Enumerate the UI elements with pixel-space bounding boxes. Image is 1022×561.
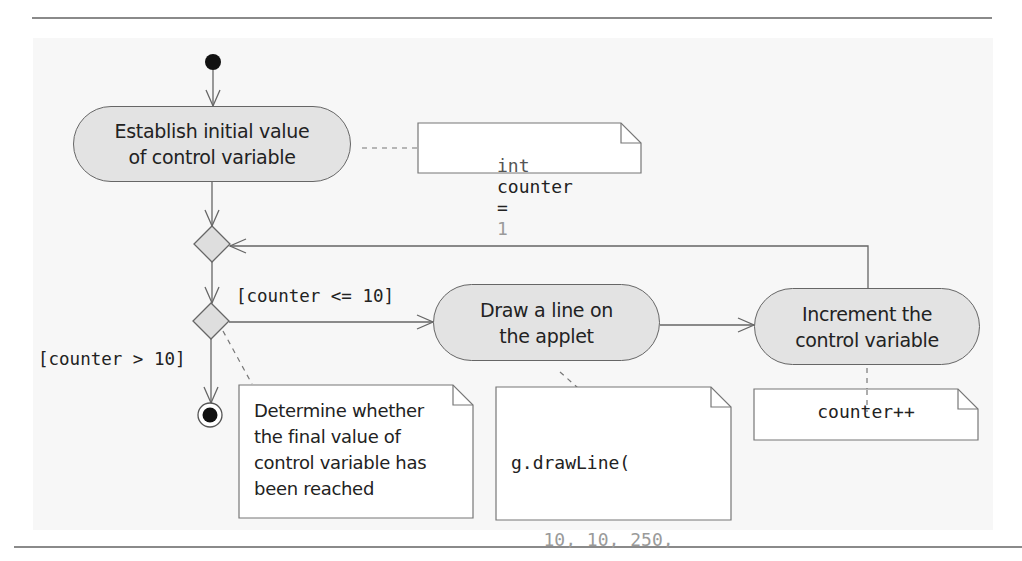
note-decision-description: Determine whether the final value of con… [239,385,473,518]
guard-counter-gt-10: [counter > 10] [38,349,186,369]
note-line: the final value of [254,424,426,450]
decision-diamond-icon [193,303,229,339]
note-anchor-decision [223,331,252,384]
code-line: 10, 10, 250, [511,527,674,553]
note-drawline-code: g.drawLine( 10, 10, 250, counter * 10 ); [496,387,731,520]
code-literal: 1 [497,218,508,239]
note-increment-code: counter++ [754,389,978,440]
initial-node-icon [205,54,221,70]
action-label-line: of control variable [115,144,310,170]
guard-counter-le-10: [counter <= 10] [236,286,394,306]
note-line: been reached [254,476,426,502]
action-draw-line: Draw a line on the applet [433,284,660,361]
code-operator: = [497,197,508,218]
merge-diamond-icon [194,226,230,262]
code-literal-args: 10, 10, 250, [544,529,674,550]
action-label-line: Increment the [795,301,939,327]
note-anchor-draw [560,372,578,388]
code-line: counter++ [754,401,978,422]
note-line: Determine whether [254,398,426,424]
figure-canvas: Establish initial value of control varia… [0,0,1022,561]
code-line: g.drawLine( [511,450,674,476]
final-node-inner-icon [203,408,218,423]
action-label-line: control variable [795,327,939,353]
action-increment-control-variable: Increment the control variable [754,288,980,365]
action-label-line: Establish initial value [115,118,310,144]
code-identifier: counter [497,176,573,197]
note-init-counter: int counter = 1 [418,123,641,173]
action-label-line: the applet [480,323,613,349]
action-establish-initial-value: Establish initial value of control varia… [73,106,351,182]
note-line: control variable has [254,450,426,476]
action-label-line: Draw a line on [480,297,613,323]
code-keyword: int [497,155,530,176]
